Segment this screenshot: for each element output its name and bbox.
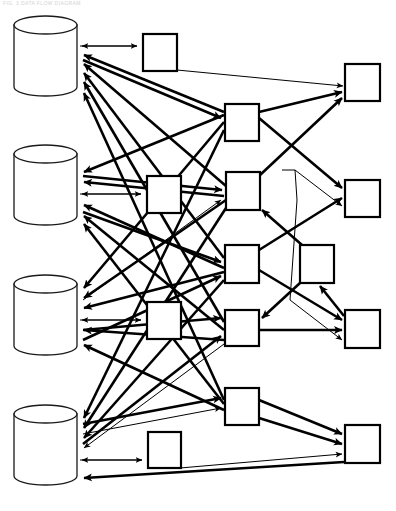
diagram-svg xyxy=(0,0,396,511)
database-node[interactable] xyxy=(14,145,77,225)
output-box[interactable] xyxy=(345,64,380,101)
database-node[interactable] xyxy=(14,405,77,485)
process-box[interactable] xyxy=(225,245,259,283)
edge-r3-p6 xyxy=(320,286,344,316)
process-box[interactable] xyxy=(148,432,181,468)
edge-p2-r2 xyxy=(259,118,342,188)
process-box[interactable] xyxy=(143,34,177,71)
output-box[interactable] xyxy=(345,180,380,217)
edge-db2-p5 xyxy=(83,212,221,262)
edge-p6-p8 xyxy=(262,283,300,318)
edge-db4-p9 xyxy=(83,398,221,424)
edge-p9-r4 xyxy=(259,400,342,434)
edge-r4-db4 xyxy=(84,462,344,478)
edge-p1-r1 xyxy=(177,70,343,86)
edge-bent-r2 xyxy=(295,170,342,206)
process-box[interactable] xyxy=(147,176,181,213)
edge-p2-db4 xyxy=(84,130,224,418)
output-box[interactable] xyxy=(345,310,380,348)
process-box[interactable] xyxy=(300,245,334,283)
output-box[interactable] xyxy=(345,425,380,463)
edge-p9b-r4 xyxy=(259,418,342,444)
process-box[interactable] xyxy=(226,172,260,210)
edge-db4-p8 xyxy=(83,336,221,444)
database-node[interactable] xyxy=(14,275,77,355)
process-box[interactable] xyxy=(225,388,259,425)
process-box[interactable] xyxy=(225,310,259,346)
database-node[interactable] xyxy=(14,16,77,96)
edge-bent2-r3 xyxy=(290,300,342,340)
process-box[interactable] xyxy=(147,302,181,339)
process-box[interactable] xyxy=(225,104,259,141)
edge-group-db1 xyxy=(80,46,226,400)
diagram-canvas: FIG. 3 DATA FLOW DIAGRAM xyxy=(0,0,396,511)
